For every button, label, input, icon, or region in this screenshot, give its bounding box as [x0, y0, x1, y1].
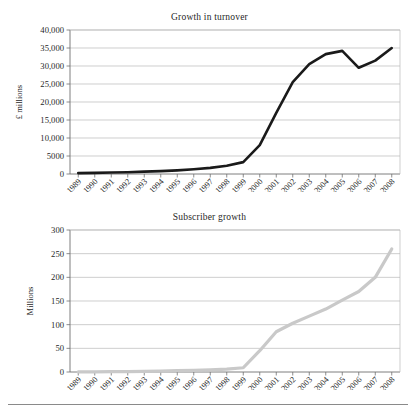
x-tick-label: 1995 [164, 375, 182, 390]
y-tick-label: 10,000 [40, 133, 64, 143]
y-tick-label: 5000 [47, 151, 64, 161]
x-tick-label: 1999 [230, 375, 248, 390]
x-tick-label: 1990 [81, 375, 99, 390]
x-tick-label: 1989 [65, 375, 83, 390]
y-tick-label: 15,000 [40, 115, 64, 125]
x-tick-label: 2002 [279, 177, 297, 192]
y-tick-label: 20,000 [40, 97, 64, 107]
x-tick-label: 2006 [345, 375, 363, 390]
x-tick-label: 2002 [279, 375, 297, 390]
y-tick-label: 0 [60, 169, 64, 179]
x-tick-label: 1996 [180, 375, 198, 390]
turnover-svg: 0500010,00015,00020,00025,00030,00035,00… [0, 22, 419, 192]
turnover-plot-area: 0500010,00015,00020,00025,00030,00035,00… [0, 22, 419, 192]
y-axis-title: £ millions [14, 85, 24, 119]
y-tick-label: 100 [51, 320, 64, 330]
x-tick-label: 2000 [246, 177, 264, 192]
bottom-divider [8, 404, 408, 405]
x-tick-label: 1998 [213, 375, 231, 390]
x-tick-label: 1992 [114, 177, 132, 192]
subscriber-plot-area: 0501001502002503001989199019911992199319… [0, 222, 419, 390]
x-tick-label: 2008 [378, 177, 396, 192]
x-tick-label: 1992 [114, 375, 132, 390]
y-tick-label: 30,000 [40, 61, 64, 71]
x-tick-label: 1997 [197, 177, 215, 192]
y-tick-label: 25,000 [40, 79, 64, 89]
x-tick-label: 2007 [362, 375, 380, 390]
y-tick-label: 50 [55, 343, 64, 353]
y-tick-label: 150 [51, 296, 64, 306]
x-tick-label: 1990 [81, 177, 99, 192]
subscriber-figure: Subscriber growth 0501001502002503001989… [0, 205, 419, 395]
y-tick-label: 300 [51, 225, 64, 235]
subscriber-svg: 0501001502002503001989199019911992199319… [0, 222, 419, 390]
x-tick-label: 2005 [329, 177, 347, 192]
x-tick-label: 2007 [362, 177, 380, 192]
x-tick-label: 2001 [263, 375, 281, 390]
x-tick-label: 2003 [296, 177, 314, 192]
x-tick-label: 1999 [230, 177, 248, 192]
x-tick-label: 1989 [65, 177, 83, 192]
x-tick-label: 1997 [197, 375, 215, 390]
x-tick-label: 1993 [131, 177, 149, 192]
x-tick-label: 1995 [164, 177, 182, 192]
x-tick-label: 2008 [378, 375, 396, 390]
y-tick-label: 0 [60, 367, 64, 377]
x-tick-label: 2000 [246, 375, 264, 390]
x-tick-label: 1993 [131, 375, 149, 390]
y-axis-title: Millions [25, 287, 35, 316]
y-tick-label: 35,000 [40, 43, 64, 53]
y-tick-label: 200 [51, 272, 64, 282]
x-tick-label: 1996 [180, 177, 198, 192]
x-tick-label: 2006 [345, 177, 363, 192]
y-tick-label: 250 [51, 249, 64, 259]
subscriber-chart-title: Subscriber growth [0, 205, 419, 222]
x-tick-label: 2003 [296, 375, 314, 390]
turnover-figure: Growth in turnover 0500010,00015,00020,0… [0, 0, 419, 205]
x-tick-label: 1991 [98, 375, 116, 390]
y-tick-label: 40,000 [40, 25, 64, 35]
x-tick-label: 2001 [263, 177, 281, 192]
turnover-chart-title: Growth in turnover [0, 0, 419, 22]
x-tick-label: 1991 [98, 177, 116, 192]
x-tick-label: 1998 [213, 177, 231, 192]
x-tick-label: 2005 [329, 375, 347, 390]
